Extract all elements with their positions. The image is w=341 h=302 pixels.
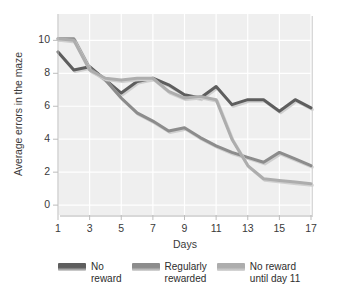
legend-swatch-icon: [217, 263, 245, 271]
x-axis-title: Days: [58, 238, 312, 250]
legend-swatch-icon: [132, 263, 160, 271]
line-chart-plot: [0, 0, 341, 302]
chart-legend: No rewardRegularly rewardedNo reward unt…: [58, 261, 334, 284]
chart-figure: Average errors in the maze Days 1086420 …: [0, 0, 341, 302]
x-tick-label: 15: [269, 222, 289, 234]
legend-label: Regularly rewarded: [165, 261, 207, 284]
x-tick-label: 1: [48, 222, 68, 234]
x-tick-label: 13: [238, 222, 258, 234]
y-tick-label: 4: [24, 132, 50, 144]
x-tick-label: 11: [206, 222, 226, 234]
legend-item: No reward until day 11: [217, 261, 300, 284]
x-tick-label: 7: [143, 222, 163, 234]
legend-item: Regularly rewarded: [132, 261, 207, 284]
legend-label: No reward until day 11: [250, 261, 300, 284]
x-tick-label: 3: [80, 222, 100, 234]
y-axis-title: Average errors in the maze: [12, 14, 24, 214]
y-tick-label: 8: [24, 66, 50, 78]
y-tick-label: 6: [24, 99, 50, 111]
x-tick-label: 9: [175, 222, 195, 234]
y-tick-label: 10: [24, 33, 50, 45]
y-tick-label: 2: [24, 165, 50, 177]
legend-swatch-icon: [58, 263, 86, 271]
legend-item: No reward: [58, 261, 122, 284]
legend-label: No reward: [91, 261, 122, 284]
x-tick-label: 5: [111, 222, 131, 234]
x-tick-label: 17: [301, 222, 321, 234]
y-tick-label: 0: [24, 198, 50, 210]
